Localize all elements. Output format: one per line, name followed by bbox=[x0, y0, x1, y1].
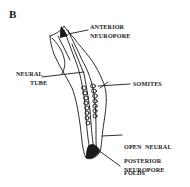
leader-open-neural-folds bbox=[102, 135, 122, 136]
head-fold bbox=[52, 38, 65, 74]
leader-posterior-neuropore bbox=[98, 150, 120, 166]
somites-left bbox=[82, 86, 90, 125]
posterior-neuropore-fill bbox=[86, 144, 100, 159]
label-line: NEUROPORE bbox=[90, 32, 130, 41]
label-line: NEURAL bbox=[16, 70, 47, 79]
label-line: POSTERIOR bbox=[124, 157, 164, 166]
label-line: SOMITES bbox=[133, 80, 162, 89]
anterior-neuropore-fill bbox=[60, 26, 68, 38]
label-posterior-neuropore: POSTERIOR NEUROPORE bbox=[124, 157, 164, 174]
label-line: OPEN NEURAL bbox=[124, 143, 172, 152]
leader-anterior-neuropore bbox=[68, 30, 88, 34]
label-anterior-neuropore: ANTERIOR NEUROPORE bbox=[90, 23, 130, 40]
label-neural-tube: NEURAL TUBE bbox=[16, 70, 47, 87]
label-line: ANTERIOR bbox=[90, 23, 130, 32]
somites-right bbox=[91, 84, 98, 118]
label-line: NEUROPORE bbox=[124, 166, 164, 175]
label-somites: SOMITES bbox=[133, 80, 162, 89]
label-line: TUBE bbox=[16, 79, 47, 88]
label-open-neural-folds: OPEN NEURAL FOLDS bbox=[124, 126, 172, 186]
